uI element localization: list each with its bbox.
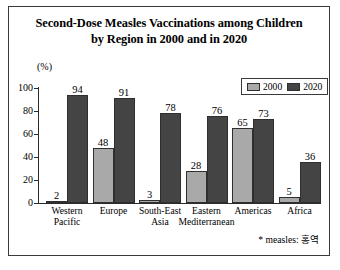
chart-title-line-2: by Region in 2000 and in 2020 bbox=[9, 31, 329, 47]
x-axis-category-line: Western bbox=[51, 206, 82, 217]
y-axis-tick-mark bbox=[34, 203, 38, 204]
y-axis-tick-mark bbox=[34, 180, 38, 181]
bar-value-label: 76 bbox=[212, 105, 223, 116]
bar-value-label: 5 bbox=[286, 186, 291, 197]
bar-2020: 91 bbox=[114, 98, 135, 203]
x-axis-category-line: Africa bbox=[287, 206, 312, 217]
bar-group: 2876EasternMediterranean bbox=[186, 88, 228, 203]
chart-footnote: * measles: 홍역 bbox=[258, 234, 319, 245]
bar-2000: 3 bbox=[139, 200, 160, 203]
bar-value-label: 94 bbox=[72, 84, 83, 95]
x-axis-category-label: Europe bbox=[100, 206, 128, 217]
bar-2020: 94 bbox=[67, 95, 88, 203]
bar-group: 536Africa bbox=[279, 88, 321, 203]
chart-figure: Second-Dose Measles Vaccinations among C… bbox=[8, 6, 330, 256]
y-axis-tick-label: 80 bbox=[23, 106, 33, 116]
y-axis-tick-mark bbox=[34, 157, 38, 158]
bar-value-label: 91 bbox=[119, 87, 130, 98]
chart-title: Second-Dose Measles Vaccinations among C… bbox=[9, 15, 329, 47]
bar-2020: 78 bbox=[160, 113, 181, 203]
bar-value-label: 65 bbox=[237, 117, 248, 128]
y-axis-tick-mark bbox=[34, 111, 38, 112]
bar-2000: 48 bbox=[93, 148, 114, 203]
y-axis-tick-label: 20 bbox=[23, 175, 33, 185]
x-axis-category-label: Africa bbox=[287, 206, 312, 217]
x-axis-category-line: Mediterranean bbox=[179, 217, 235, 228]
y-axis-tick-mark bbox=[34, 88, 38, 89]
bar-2000: 5 bbox=[279, 197, 300, 203]
bar-2020: 76 bbox=[207, 116, 228, 203]
y-axis-line bbox=[38, 87, 39, 204]
bar-2020: 36 bbox=[300, 162, 321, 203]
y-axis-tick-mark bbox=[34, 134, 38, 135]
bar-2000: 2 bbox=[46, 201, 67, 203]
bar-2000: 65 bbox=[232, 128, 253, 203]
x-axis-category-label: WesternPacific bbox=[51, 206, 82, 227]
bar-value-label: 73 bbox=[258, 108, 269, 119]
bar-group: 6573Americas bbox=[232, 88, 274, 203]
x-axis-category-line: Americas bbox=[235, 206, 272, 217]
x-axis-line bbox=[38, 203, 321, 204]
y-axis-tick-label: 0 bbox=[28, 198, 33, 208]
bar-value-label: 78 bbox=[165, 102, 176, 113]
bar-group: 4891Europe bbox=[93, 88, 135, 203]
x-axis-category-line: Eastern bbox=[179, 206, 235, 217]
y-axis-tick-label: 40 bbox=[23, 152, 33, 162]
x-axis-category-line: Europe bbox=[100, 206, 128, 217]
bar-2020: 73 bbox=[253, 119, 274, 203]
plot-area: 100806040200 294WesternPacific4891Europe… bbox=[38, 88, 320, 203]
x-axis-category-label: EasternMediterranean bbox=[179, 206, 235, 227]
x-axis-category-line: South-East bbox=[139, 206, 181, 217]
bar-group: 378South-EastAsia bbox=[139, 88, 181, 203]
x-axis-category-line: Pacific bbox=[51, 217, 82, 228]
x-axis-category-label: South-EastAsia bbox=[139, 206, 181, 227]
bar-value-label: 3 bbox=[147, 189, 152, 200]
chart-title-line-1: Second-Dose Measles Vaccinations among C… bbox=[9, 15, 329, 31]
bar-value-label: 28 bbox=[191, 160, 202, 171]
bar-value-label: 36 bbox=[305, 151, 316, 162]
bar-value-label: 48 bbox=[98, 137, 109, 148]
x-axis-category-line: Asia bbox=[139, 217, 181, 228]
bar-group: 294WesternPacific bbox=[46, 88, 88, 203]
y-axis-tick-label: 100 bbox=[18, 83, 33, 93]
y-axis-unit-label: (%) bbox=[37, 61, 52, 72]
x-axis-category-label: Americas bbox=[235, 206, 272, 217]
bar-value-label: 2 bbox=[54, 190, 59, 201]
bar-2000: 28 bbox=[186, 171, 207, 203]
y-axis-tick-label: 60 bbox=[23, 129, 33, 139]
